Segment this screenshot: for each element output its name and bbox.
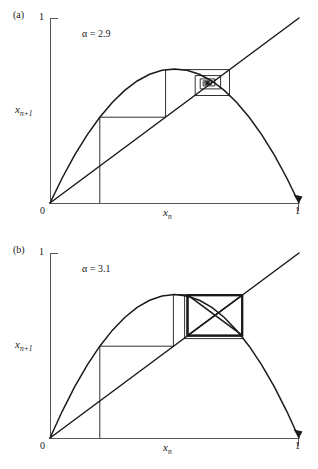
logistic-curve [50, 295, 299, 438]
panel-b-axes [50, 253, 299, 446]
y-axis-sub: n+1 [20, 344, 33, 353]
panel-a-axes [50, 18, 299, 211]
panel-a: (a) 1 α = 2.9 0 1 xn xn+1 [0, 0, 318, 234]
panel-b-xtick-1: 1 [295, 441, 300, 451]
identity-line [50, 18, 299, 203]
figure-root: (a) 1 α = 2.9 0 1 xn xn+1 [0, 0, 318, 469]
panel-b-curves [50, 253, 299, 438]
panel-a-y-axis-title: xn+1 [15, 104, 32, 118]
x-axis-sub: n [168, 212, 172, 221]
panel-a-plot [0, 0, 318, 234]
panel-b-tag: (b) [13, 245, 25, 255]
panel-b: (b) 1 α = 3.1 0 1 xn xn+1 [0, 235, 318, 469]
panel-b-alpha-label: α = 3.1 [82, 264, 110, 274]
panel-a-curves [50, 18, 299, 203]
panel-b-period2-box [188, 295, 243, 335]
panel-b-plot [0, 235, 318, 469]
panel-a-xtick-0: 0 [40, 206, 45, 216]
logistic-curve [50, 69, 299, 203]
panel-b-x-axis-title: xn [163, 442, 172, 456]
cobweb-start [100, 295, 243, 438]
y-axis-sub: n+1 [20, 109, 33, 118]
panel-a-xtick-1: 1 [295, 206, 300, 216]
panel-a-alpha-label: α = 2.9 [82, 29, 110, 39]
panel-b-cobweb [100, 295, 243, 438]
cobweb-start [100, 70, 230, 203]
identity-line [50, 253, 299, 438]
panel-b-xtick-0: 0 [40, 441, 45, 451]
panel-a-cobweb [100, 70, 230, 203]
panel-b-y-axis-title: xn+1 [15, 339, 32, 353]
panel-b-ytick-1: 1 [39, 247, 44, 257]
panel-a-ytick-1: 1 [39, 12, 44, 22]
panel-a-x-axis-title: xn [163, 207, 172, 221]
caption-strip [0, 455, 318, 469]
panel-a-tag: (a) [13, 10, 24, 20]
